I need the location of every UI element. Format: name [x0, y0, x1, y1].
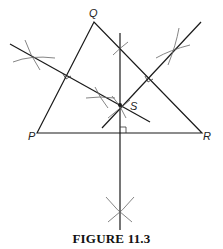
label-p: P — [28, 130, 36, 142]
bisector-qr — [102, 22, 201, 128]
bisector-pq — [10, 44, 150, 122]
label-r: R — [203, 130, 211, 142]
label-q: Q — [89, 7, 98, 19]
construction-arcs — [13, 28, 190, 222]
figure-caption: FIGURE 11.3 — [0, 231, 223, 247]
label-s: S — [130, 100, 138, 112]
right-angle-marker-pr — [120, 127, 126, 133]
geometry-diagram: Q P R S — [0, 0, 223, 230]
point-s — [118, 103, 122, 107]
